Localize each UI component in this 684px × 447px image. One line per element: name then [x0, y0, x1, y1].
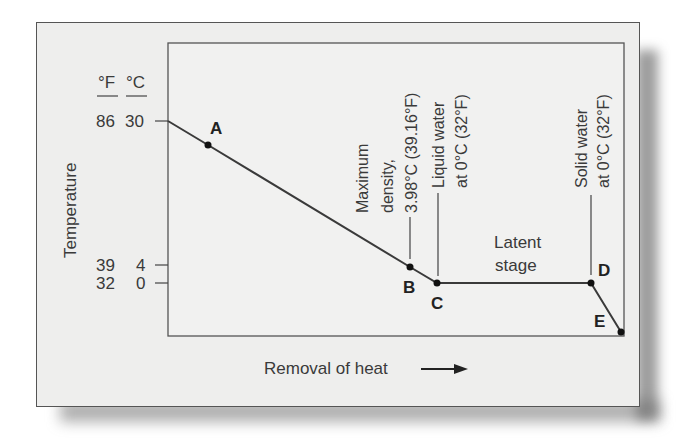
- tick-label-f-32: 32: [96, 274, 115, 293]
- annotation-b-line-3: 3.98°C (39.16°F): [403, 93, 420, 213]
- point-e: [618, 329, 625, 336]
- point-label-e: E: [594, 312, 605, 331]
- x-axis-label: Removal of heat: [264, 359, 388, 378]
- latent-stage-line-2: stage: [495, 256, 537, 275]
- annotation-c-line-1: Liquid water: [430, 101, 447, 188]
- point-d: [588, 280, 595, 287]
- point-b: [407, 264, 414, 271]
- annotation-c-line-2: at 0°C (32°F): [453, 94, 470, 188]
- annotation-d-line-2: at 0°C (32°F): [595, 94, 612, 188]
- tick-label-c-30: 30: [125, 112, 144, 131]
- y-axis-label: Temperature: [61, 163, 80, 258]
- tick-label-f-39: 39: [96, 256, 115, 275]
- tick-label-c-0: 0: [136, 274, 145, 293]
- tick-label-f-86: 86: [96, 112, 115, 131]
- point-label-a: A: [210, 119, 222, 138]
- point-label-c: C: [431, 294, 443, 313]
- arrow-right-icon: [421, 364, 468, 374]
- annotation-d-line-1: Solid water: [573, 108, 590, 188]
- unit-header-c: °C: [126, 73, 145, 92]
- tick-label-c-4: 4: [136, 256, 145, 275]
- point-label-b: B: [403, 278, 415, 297]
- plot-area: [168, 43, 624, 336]
- cooling-curve-chart: °F °C 86 30 39 4 32 0 Temperature A B C …: [0, 0, 684, 447]
- point-label-d: D: [598, 261, 610, 280]
- latent-stage-line-1: Latent: [494, 233, 542, 252]
- unit-header-f: °F: [98, 73, 115, 92]
- point-a: [205, 142, 212, 149]
- point-c: [434, 280, 441, 287]
- annotation-b-line-2: density,: [379, 159, 396, 213]
- annotation-b-line-1: Maximum: [354, 144, 371, 213]
